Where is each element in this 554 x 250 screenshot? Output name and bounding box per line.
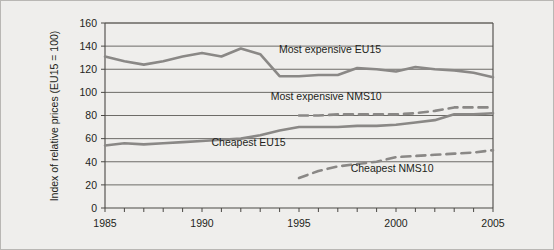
chart-figure: 020406080100120140160 198519901995200020… bbox=[0, 0, 554, 250]
series-annotation: Most expensive EU15 bbox=[279, 43, 381, 55]
x-tickmarks-group bbox=[105, 208, 493, 212]
series-annotation: Cheapest NMS10 bbox=[351, 162, 434, 174]
series-annotation: Cheapest EU15 bbox=[211, 136, 285, 148]
y-tick-label: 60 bbox=[85, 132, 97, 144]
series-line-cheapest-eu15 bbox=[105, 113, 493, 145]
y-tick-label: 80 bbox=[85, 109, 97, 121]
x-tick-label: 2000 bbox=[384, 217, 408, 229]
y-tick-label: 20 bbox=[85, 179, 97, 191]
x-tick-label: 1985 bbox=[93, 217, 117, 229]
y-axis-title: Index of relative prices (EU15 = 100) bbox=[48, 31, 60, 202]
line-chart: 020406080100120140160 198519901995200020… bbox=[1, 1, 554, 250]
y-tick-label: 160 bbox=[79, 17, 97, 29]
y-tick-labels-group: 020406080100120140160 bbox=[79, 17, 105, 214]
x-tick-label: 1990 bbox=[190, 217, 214, 229]
x-tick-label: 2005 bbox=[481, 217, 505, 229]
x-tick-labels-group: 19851990199520002005 bbox=[93, 217, 505, 229]
x-tick-label: 1995 bbox=[287, 217, 311, 229]
series-annotation: Most expensive NMS10 bbox=[271, 90, 382, 102]
series-lines-group bbox=[105, 48, 493, 178]
y-tick-label: 140 bbox=[79, 40, 97, 52]
series-annotations-group: Most expensive EU15Most expensive NMS10C… bbox=[211, 43, 433, 174]
y-tick-label: 0 bbox=[91, 202, 97, 214]
y-tick-label: 40 bbox=[85, 156, 97, 168]
y-tick-label: 100 bbox=[79, 86, 97, 98]
y-tick-label: 120 bbox=[79, 63, 97, 75]
